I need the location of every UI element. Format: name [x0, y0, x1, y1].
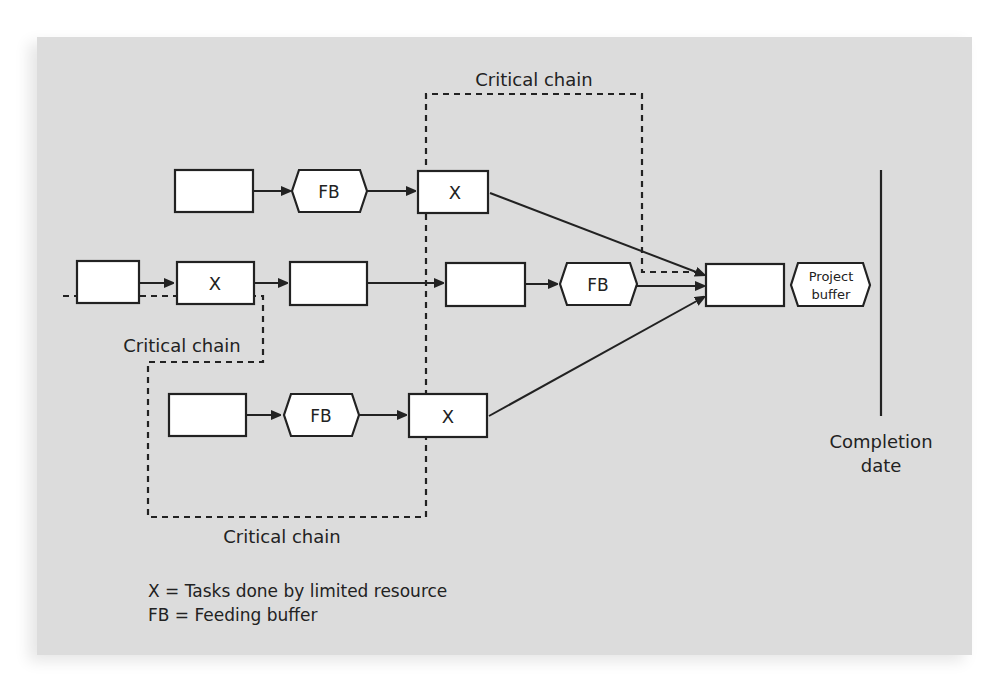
bottom-chain: FB X	[169, 297, 704, 437]
critical-chain-label-bottom: Critical chain	[223, 526, 340, 547]
mid-task-4[interactable]	[446, 263, 525, 306]
bottom-task-1[interactable]	[169, 394, 246, 436]
project-buffer-label-2: buffer	[812, 287, 851, 302]
critical-chain-label-left: Critical chain	[123, 335, 240, 356]
completion-date-label-2: date	[861, 455, 902, 476]
critical-chain-diagram: FB X X FB Project buffer FB X Compl	[0, 0, 1007, 690]
mid-task-1[interactable]	[77, 261, 139, 303]
mid-fb-label: FB	[587, 275, 608, 295]
mid-x-label: X	[209, 273, 221, 294]
top-x-label: X	[449, 182, 461, 203]
critical-chain-label-top: Critical chain	[475, 69, 592, 90]
completion-date-label-1: Completion	[829, 431, 932, 452]
final-task[interactable]	[706, 264, 784, 306]
top-chain: FB X	[175, 170, 704, 275]
critical-chain-path	[63, 94, 783, 517]
top-fb-label: FB	[318, 182, 339, 202]
project-buffer-label-1: Project	[809, 269, 853, 284]
legend-fb: FB = Feeding buffer	[148, 605, 317, 625]
bottom-x-label: X	[442, 406, 454, 427]
bottom-fb-label: FB	[310, 406, 331, 426]
main-chain: X FB Project buffer	[77, 261, 870, 306]
top-task-1[interactable]	[175, 170, 253, 212]
legend-x: X = Tasks done by limited resource	[148, 581, 447, 601]
mid-task-3[interactable]	[290, 262, 367, 305]
